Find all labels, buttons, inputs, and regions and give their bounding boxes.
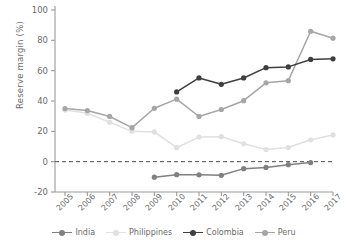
data-point-colombia: [219, 82, 224, 87]
data-point-india: [241, 166, 246, 171]
legend-label: Colombia: [206, 228, 244, 237]
data-point-peru: [174, 97, 179, 102]
data-point-peru: [129, 125, 134, 130]
data-point-peru: [107, 114, 112, 119]
x-tick-label: 2015: [271, 192, 299, 220]
x-tick-label: 2012: [204, 192, 232, 220]
data-point-colombia: [196, 75, 201, 80]
data-point-philippines: [263, 147, 268, 152]
x-tick-label: 2013: [226, 192, 254, 220]
data-point-colombia: [330, 56, 335, 61]
data-point-india: [174, 172, 179, 177]
data-point-peru: [85, 108, 90, 113]
y-tick-label: 40: [37, 96, 48, 106]
data-point-philippines: [196, 135, 201, 140]
data-point-india: [263, 165, 268, 170]
legend-item-colombia[interactable]: Colombia: [183, 228, 244, 237]
legend-marker-icon: [52, 229, 72, 237]
x-tick-label: 2016: [293, 192, 321, 220]
data-point-peru: [286, 78, 291, 83]
data-point-peru: [196, 114, 201, 119]
y-tick-label: 80: [37, 35, 48, 45]
series-line-colombia: [177, 59, 333, 92]
data-point-philippines: [174, 145, 179, 150]
data-point-india: [152, 175, 157, 180]
x-axis-tick-labels: 2005200620072008200920102011201220132014…: [55, 192, 333, 232]
plot-svg: [55, 10, 333, 192]
legend-item-philippines[interactable]: Philippines: [106, 228, 172, 237]
data-point-philippines: [241, 141, 246, 146]
data-point-india: [196, 172, 201, 177]
chart-legend: IndiaPhilippinesColombiaPeru: [0, 228, 348, 237]
legend-label: India: [75, 228, 95, 237]
data-point-peru: [152, 106, 157, 111]
x-tick-label: 2007: [92, 192, 120, 220]
data-point-india: [286, 162, 291, 167]
reserve-margin-line-chart: Reserve margin (%) -20020406080100 20052…: [0, 0, 348, 250]
data-point-philippines: [152, 129, 157, 134]
x-tick-label: 2009: [137, 192, 165, 220]
y-tick-label: 0: [43, 157, 48, 167]
data-point-philippines: [219, 134, 224, 139]
data-point-philippines: [107, 120, 112, 125]
x-tick-label: 2010: [159, 192, 187, 220]
data-point-peru: [263, 80, 268, 85]
legend-label: Philippines: [129, 228, 172, 237]
y-tick-label: 60: [37, 66, 48, 76]
data-point-colombia: [308, 57, 313, 62]
data-point-peru: [330, 36, 335, 41]
data-point-philippines: [330, 132, 335, 137]
legend-item-india[interactable]: India: [52, 228, 95, 237]
legend-marker-icon: [106, 229, 126, 237]
data-point-peru: [62, 106, 67, 111]
data-point-philippines: [308, 137, 313, 142]
legend-marker-icon: [255, 229, 275, 237]
y-axis-tick-labels: -20020406080100: [24, 0, 48, 250]
data-point-philippines: [286, 145, 291, 150]
data-point-colombia: [263, 65, 268, 70]
data-point-india: [219, 173, 224, 178]
y-tick-label: 20: [37, 126, 48, 136]
data-point-colombia: [241, 75, 246, 80]
legend-item-peru[interactable]: Peru: [255, 228, 296, 237]
data-point-colombia: [174, 89, 179, 94]
data-point-india: [308, 160, 313, 165]
data-point-peru: [219, 107, 224, 112]
x-tick-label: 2006: [70, 192, 98, 220]
data-point-colombia: [286, 64, 291, 69]
legend-label: Peru: [278, 228, 296, 237]
legend-marker-icon: [183, 229, 203, 237]
y-tick-label: 100: [32, 5, 48, 15]
y-tick-label: -20: [34, 187, 48, 197]
plot-area: [55, 10, 333, 192]
data-point-peru: [241, 98, 246, 103]
data-point-peru: [308, 29, 313, 34]
